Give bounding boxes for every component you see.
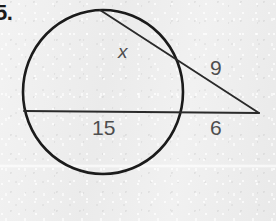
worksheet-problem-figure: 5. x 9 15 6 [0,0,276,221]
lower-secant-line [24,111,259,113]
label-x: x [118,42,128,61]
label-six: 6 [210,117,222,138]
label-fifteen: 15 [92,117,115,138]
circle-shape [23,10,183,174]
label-nine: 9 [210,57,222,78]
geometry-figure [0,0,276,221]
